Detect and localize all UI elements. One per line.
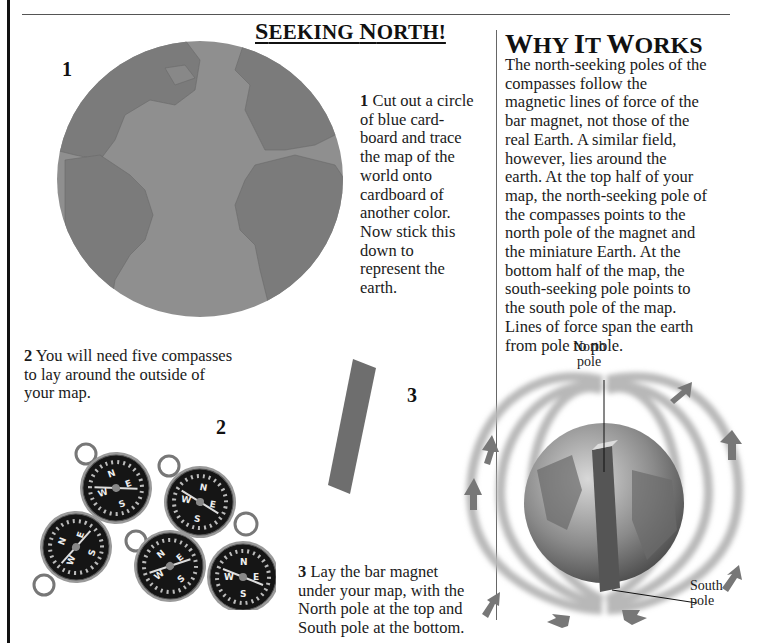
south-pole-label: South pole [690, 578, 723, 608]
figure-2-number: 2 [216, 416, 226, 439]
step-1-text: 1 Cut out a circle of blue card- board a… [360, 92, 492, 298]
bar-magnet-illustration [320, 355, 380, 495]
top-rule [22, 14, 730, 15]
north-pole-label: North pole [573, 339, 606, 369]
why-it-works-text: The north-seeking poles of the compasses… [505, 56, 755, 355]
figure-3-number: 3 [407, 384, 417, 407]
page-left-border [7, 0, 10, 643]
compasses-illustration: N E S W [14, 440, 276, 610]
cardboard-globe-illustration [55, 40, 345, 320]
step-2-text: 2 You will need five compasses to lay ar… [24, 347, 314, 403]
